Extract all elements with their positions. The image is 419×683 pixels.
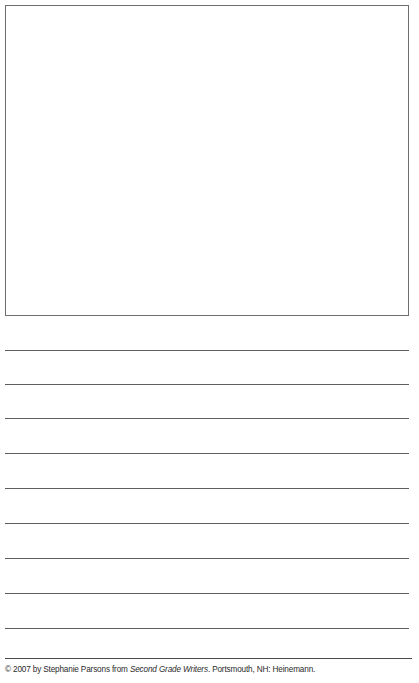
book-title: Second Grade Writers [130,665,208,674]
copyright-credit: © 2007 by Stephanie Parsons from Second … [5,664,415,675]
drawing-box[interactable] [5,5,409,316]
copyright-suffix: . Portsmouth, NH: Heinemann. [208,665,315,674]
writing-line-5[interactable] [5,488,409,489]
writing-line-9[interactable] [5,628,409,629]
writing-lines-area[interactable] [0,316,419,646]
writing-line-7[interactable] [5,558,409,559]
footer-divider [5,658,412,659]
writing-line-1[interactable] [5,350,409,351]
writing-line-3[interactable] [5,418,409,419]
page-footer: © 2007 by Stephanie Parsons from Second … [0,652,419,683]
drawing-surface[interactable] [6,6,408,315]
writing-line-8[interactable] [5,593,409,594]
writing-line-6[interactable] [5,523,409,524]
writing-line-2[interactable] [5,384,409,385]
worksheet-page: © 2007 by Stephanie Parsons from Second … [0,0,419,683]
copyright-prefix: © 2007 by Stephanie Parsons from [5,665,130,674]
writing-line-4[interactable] [5,453,409,454]
